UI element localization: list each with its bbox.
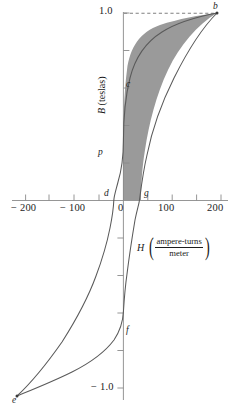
descending-branch-curve bbox=[17, 13, 217, 396]
y-tick-label-1.0: 1.0 bbox=[99, 6, 113, 17]
y-axis-symbol: B bbox=[96, 108, 107, 114]
y-axis-unit: (teslas) bbox=[96, 77, 107, 106]
right-paren: ) bbox=[205, 236, 210, 257]
x-tick-label-0: 0 bbox=[118, 203, 123, 214]
x-tick-label-200: 200 bbox=[207, 203, 223, 214]
point-label-d: d bbox=[104, 189, 109, 199]
point-label-g: g bbox=[144, 189, 149, 199]
y-axis-title: B (teslas) bbox=[96, 77, 107, 115]
x-tick-label--200: − 200 bbox=[11, 203, 36, 214]
y-tick-label--1.0: − 1.0 bbox=[91, 382, 114, 393]
point-label-b: b bbox=[213, 2, 218, 12]
x-axis-symbol: H bbox=[137, 242, 144, 253]
x-tick-label-100: 100 bbox=[158, 203, 174, 214]
point-label-f: f bbox=[126, 326, 129, 336]
hysteresis-loop-figure: − 200 − 100 0 100 200 1.0 − 1.0 B (tesla… bbox=[0, 0, 236, 419]
point-label-c: c bbox=[126, 80, 130, 90]
point-b-marker bbox=[216, 12, 219, 15]
shaded-region bbox=[123, 13, 217, 200]
unit-numerator: ampere-turns bbox=[155, 236, 202, 247]
left-paren: ( bbox=[149, 236, 154, 257]
ascending-branch-curve bbox=[17, 13, 217, 396]
unit-fraction: ampere-turns meter bbox=[155, 236, 202, 258]
point-label-p: p bbox=[98, 148, 103, 158]
x-axis-title: H ( ampere-turns meter ) bbox=[137, 236, 211, 258]
x-tick-label--100: − 100 bbox=[60, 203, 85, 214]
point-label-e: e bbox=[12, 396, 16, 406]
unit-denominator: meter bbox=[155, 247, 202, 259]
